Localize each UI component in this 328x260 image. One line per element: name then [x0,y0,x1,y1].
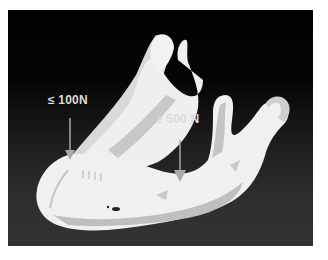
near-ramus [78,40,203,171]
figure-frame: ≤ 100N ≥ 500 N [8,10,313,246]
annotation-posterior-force: ≥ 500 N [156,112,199,126]
mandible-illustration [8,10,313,246]
annotation-anterior-force: ≤ 100N [48,93,88,107]
